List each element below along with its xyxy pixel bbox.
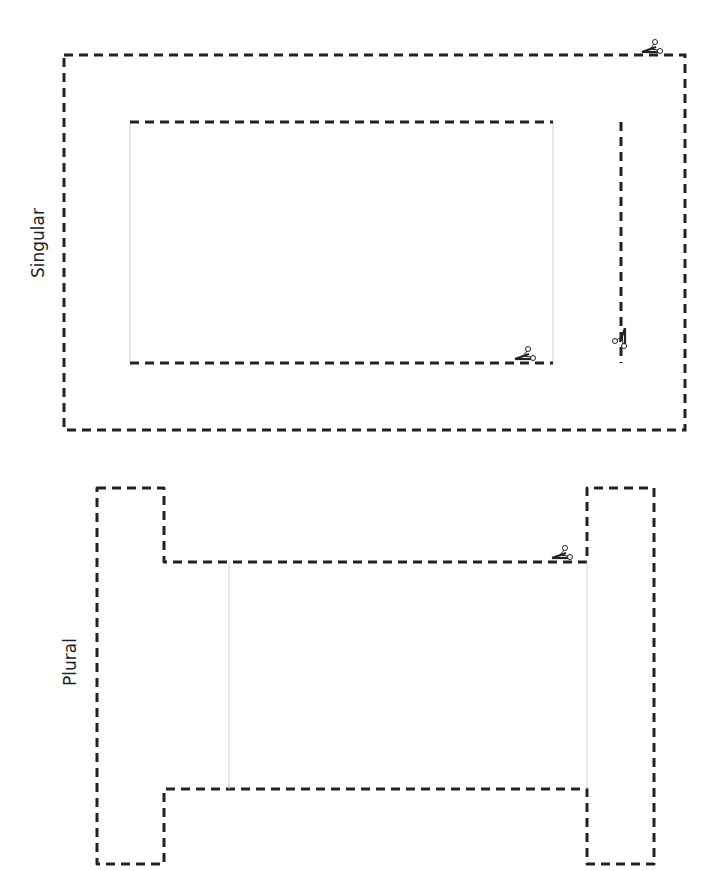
singular-label: Singular — [28, 208, 48, 278]
scissors-icon — [515, 347, 536, 361]
scissors-icon — [552, 546, 573, 560]
plural-label: Plural — [60, 638, 80, 686]
scissors-icon — [613, 328, 627, 349]
singular-outer-cut-line — [64, 55, 685, 430]
cutout-template — [0, 0, 707, 871]
plural-outer-cut-line — [97, 488, 654, 864]
scissors-icon — [642, 40, 663, 54]
